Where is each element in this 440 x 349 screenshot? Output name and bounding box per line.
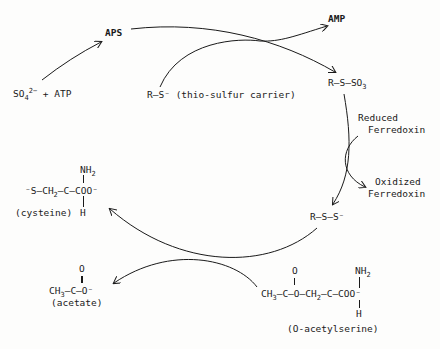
oxidized-ferredoxin-line1: Oxidized xyxy=(375,177,421,187)
arrow-rss-to-cysteine xyxy=(110,209,317,257)
r-s-s-label: R—S—S⁻ xyxy=(310,212,344,222)
r-s-so3-label: R—S—SO3 xyxy=(328,78,367,88)
oas-bond-bottom xyxy=(359,300,360,308)
thio-carrier-label: R—S⁻ (thio-sulfur carrier) xyxy=(147,90,296,100)
arrow-sulfate-to-aps xyxy=(42,42,101,80)
oas-formula: CH3—C—O—CH2—C—COO⁻ xyxy=(261,289,361,299)
oas-h: H xyxy=(356,309,362,319)
acetate-double-bond xyxy=(81,276,83,283)
oas-o: O xyxy=(292,266,298,276)
cysteine-bond-top xyxy=(83,175,84,183)
diagram-canvas: SO42− + ATP APS AMP R—S⁻ (thio-sulfur ca… xyxy=(0,0,440,349)
sulfate-atp-label: SO42− + ATP xyxy=(13,89,71,99)
cysteine-formula: ⁻S—CH2—C—COO⁻ xyxy=(25,186,98,196)
reduced-ferredoxin-line2: Ferredoxin xyxy=(368,125,425,135)
amp-label: AMP xyxy=(328,14,345,24)
arrow-rsso3-to-rss xyxy=(333,94,349,204)
oas-double-bond xyxy=(294,278,295,285)
acetate-label: (acetate) xyxy=(51,298,102,308)
acetate-o: O xyxy=(79,264,85,274)
reduced-ferredoxin-line1: Reduced xyxy=(358,113,398,123)
cysteine-bond-bottom xyxy=(83,196,84,207)
arrow-oas-to-acetate xyxy=(114,259,257,287)
oas-label: (O-acetylserine) xyxy=(287,324,379,334)
aps-label: APS xyxy=(105,28,122,38)
cysteine-nh2: NH2 xyxy=(80,165,96,175)
cysteine-h: H xyxy=(80,208,86,218)
cysteine-label: (cysteine) xyxy=(15,208,72,218)
oas-nh2: NH2 xyxy=(355,266,371,276)
oas-bond-top xyxy=(359,277,360,288)
oxidized-ferredoxin-line2: Ferredoxin xyxy=(368,189,425,199)
acetate-formula: CH3—C—O⁻ xyxy=(49,286,93,296)
